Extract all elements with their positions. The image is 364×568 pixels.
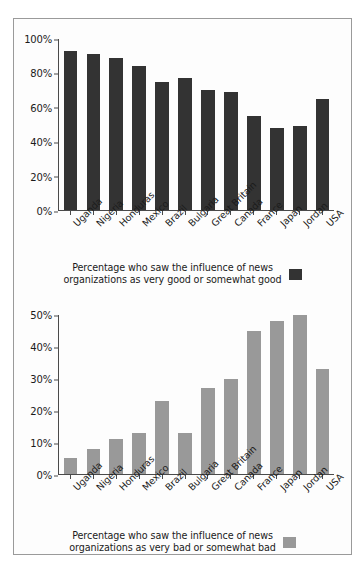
bar xyxy=(64,51,78,210)
x-label-slot: Uganda xyxy=(59,479,82,531)
x-label-slot: France xyxy=(243,479,266,531)
y-tick-label: 30% xyxy=(30,374,58,385)
y-tick-label: 60% xyxy=(30,102,58,113)
y-tick-label: 50% xyxy=(30,310,58,321)
x-label-slot: Mexico xyxy=(128,215,151,267)
bar xyxy=(293,126,307,210)
x-label-slot: Nigeria xyxy=(82,479,105,531)
bar-slot xyxy=(174,39,197,210)
bar xyxy=(64,458,78,474)
bottom-chart-panel: 0%10%20%30%40%50% UgandaNigeriaHondurasM… xyxy=(14,285,351,555)
x-label-slot: Canada xyxy=(220,479,243,531)
x-label-slot: Mexico xyxy=(128,479,151,531)
bar-slot xyxy=(105,39,128,210)
bar-slot xyxy=(105,315,128,474)
bar-slot xyxy=(151,39,174,210)
top-legend-line1: Percentage who saw the influence of news xyxy=(72,262,273,273)
bar-slot xyxy=(59,39,82,210)
top-plot-area: 0%20%40%60%80%100% xyxy=(58,39,334,211)
x-label-slot: Japan xyxy=(266,479,289,531)
bar-slot xyxy=(219,39,242,210)
x-label-slot: USA xyxy=(312,479,335,531)
x-label-slot: Jordan xyxy=(289,479,312,531)
bar-slot xyxy=(311,315,334,474)
y-tick-label: 40% xyxy=(30,342,58,353)
bar xyxy=(109,58,123,210)
bottom-category-labels: UgandaNigeriaHondurasMexicoBrazilBulgari… xyxy=(59,479,335,531)
x-label-slot: Jordan xyxy=(289,215,312,267)
y-tick-label: 10% xyxy=(30,438,58,449)
bar-slot xyxy=(265,39,288,210)
bar-slot xyxy=(265,315,288,474)
y-tick-label: 20% xyxy=(30,171,58,182)
bar-slot xyxy=(174,315,197,474)
top-legend-swatch xyxy=(289,269,302,280)
bar xyxy=(132,66,146,210)
top-chart-panel: 0%20%40%60%80%100% UgandaNigeriaHonduras… xyxy=(14,23,351,281)
bar-slot xyxy=(128,315,151,474)
y-tick-label: 40% xyxy=(30,137,58,148)
bar xyxy=(316,99,330,210)
bar xyxy=(293,315,307,474)
x-label-slot: Japan xyxy=(266,215,289,267)
chart-figure: 0%20%40%60%80%100% UgandaNigeriaHonduras… xyxy=(13,18,352,555)
bottom-legend-swatch xyxy=(283,537,296,548)
top-legend-text: Percentage who saw the influence of news… xyxy=(63,262,281,287)
bar-slot xyxy=(151,315,174,474)
x-label-slot: USA xyxy=(312,215,335,267)
y-tick-label: 80% xyxy=(30,68,58,79)
x-label-slot: Bulgaria xyxy=(174,479,197,531)
bottom-legend-line2: organizations as very bad or somewhat ba… xyxy=(69,542,276,553)
bar-slot xyxy=(288,39,311,210)
bar-slot xyxy=(219,315,242,474)
bar xyxy=(316,369,330,474)
bar-slot xyxy=(82,315,105,474)
y-tick-label: 0% xyxy=(37,206,58,217)
bar-slot xyxy=(197,39,220,210)
x-label-slot: Uganda xyxy=(59,215,82,267)
x-label-slot: Honduras xyxy=(105,215,128,267)
x-label-slot: Bulgaria xyxy=(174,215,197,267)
bar-slot xyxy=(59,315,82,474)
top-legend: Percentage who saw the influence of news… xyxy=(14,261,351,287)
bar xyxy=(155,82,169,210)
bottom-legend-text: Percentage who saw the influence of news… xyxy=(69,530,276,555)
bottom-legend: Percentage who saw the influence of news… xyxy=(14,529,351,555)
top-category-labels: UgandaNigeriaHondurasMexicoBrazilBulgari… xyxy=(59,215,335,267)
x-label-slot: France xyxy=(243,215,266,267)
bottom-plot-area: 0%10%20%30%40%50% xyxy=(58,315,334,475)
bar-slot xyxy=(128,39,151,210)
x-label-slot: Great Britain xyxy=(197,479,220,531)
top-bar-group xyxy=(59,39,334,210)
y-tick-label: 100% xyxy=(24,34,58,45)
x-label-slot: Honduras xyxy=(105,479,128,531)
bar-slot xyxy=(288,315,311,474)
bar-slot xyxy=(82,39,105,210)
bar xyxy=(178,78,192,210)
x-label-slot: Canada xyxy=(220,215,243,267)
top-legend-line2: organizations as very good or somewhat g… xyxy=(63,274,281,285)
bar xyxy=(270,128,284,210)
y-tick-label: 20% xyxy=(30,406,58,417)
x-label-slot: Great Britain xyxy=(197,215,220,267)
x-label-slot: Nigeria xyxy=(82,215,105,267)
bottom-legend-line1: Percentage who saw the influence of news xyxy=(72,530,273,541)
x-label-slot: Brazil xyxy=(151,479,174,531)
bottom-bar-group xyxy=(59,315,334,474)
y-tick-label: 0% xyxy=(37,470,58,481)
bar-slot xyxy=(311,39,334,210)
bar xyxy=(201,90,215,210)
bar xyxy=(87,54,101,210)
bar xyxy=(270,321,284,474)
x-label-slot: Brazil xyxy=(151,215,174,267)
bar-slot xyxy=(197,315,220,474)
